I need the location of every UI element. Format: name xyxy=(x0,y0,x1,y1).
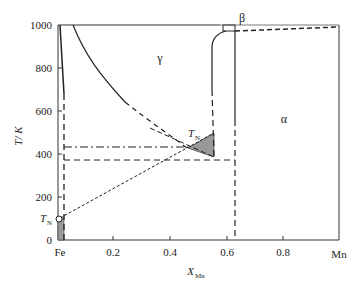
y-tick-800: 800 xyxy=(36,62,53,74)
x-axis-ticks xyxy=(113,236,283,240)
gamma-beta-boundary-solid xyxy=(212,31,226,90)
y-tick-200: 200 xyxy=(36,191,53,203)
x-tick-0-2: 0.2 xyxy=(106,246,120,258)
x-tick-0-6: 0.6 xyxy=(220,246,234,258)
tn-label-left: T xyxy=(40,212,47,224)
neel-line xyxy=(60,133,214,218)
phase-label-beta: β xyxy=(239,11,245,25)
y-tick-0: 0 xyxy=(47,234,53,246)
tn-label-main-sub: N xyxy=(195,134,200,142)
beta-top-dashed xyxy=(235,27,339,31)
gamma-curve-solid xyxy=(73,25,125,102)
y-tick-1000: 1000 xyxy=(30,19,53,31)
gamma-curve-dashed xyxy=(125,102,187,148)
tn-label-main: T xyxy=(188,127,195,139)
phase-label-alpha: α xyxy=(281,112,288,126)
x-tick-0-8: 0.8 xyxy=(276,246,290,258)
y-axis-ticks xyxy=(58,68,62,197)
tn-label-left-sub: N xyxy=(47,219,52,227)
phase-label-gamma: γ xyxy=(156,51,163,65)
x-tick-0-4: 0.4 xyxy=(163,246,177,258)
beta-region-box xyxy=(223,25,235,31)
x-axis-label-subscript: Mn xyxy=(195,272,205,280)
boundary-fe-solid xyxy=(60,25,64,94)
plot-frame xyxy=(58,25,339,240)
x-tick-mn: Mn xyxy=(331,248,347,260)
y-axis-label: T/ K xyxy=(12,126,24,146)
neel-point-circle xyxy=(56,216,62,222)
x-tick-labels: Fe 0.2 0.4 0.6 0.8 Mn xyxy=(55,246,348,260)
y-tick-400: 400 xyxy=(36,148,53,160)
y-tick-600: 600 xyxy=(36,105,53,117)
x-axis-label: X xyxy=(186,265,195,277)
phase-diagram: 1000 800 600 400 200 0 Fe 0.2 0.4 0.6 0.… xyxy=(0,0,362,286)
x-tick-fe: Fe xyxy=(55,246,66,258)
